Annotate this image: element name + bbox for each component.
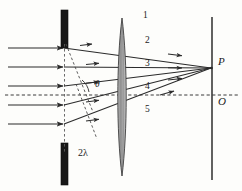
diffracted-ray-4 [64,68,211,105]
point-label-P: P [218,56,225,67]
diffraction-angle-label-theta: θ [95,80,100,90]
incoming-rays [8,48,63,124]
barrier-top-block [61,10,68,48]
wavefront-line-2 [76,84,97,139]
converging-lens [118,18,126,176]
path-difference-label-2lambda: 2λ [78,148,88,158]
ray-label-1: 1 [143,11,148,21]
diffracted-ray-5 [64,68,211,124]
ray-label-5: 5 [145,105,150,115]
diffracted-ray-2 [64,67,211,68]
diffracted-rays [64,48,211,124]
ray-label-3: 3 [145,59,150,69]
point-label-O: O [218,96,226,107]
physics-diagram-diffraction-grating: 1 2 3 4 5 P O 2λ θ [0,0,242,191]
ray-label-2: 2 [145,36,150,46]
ray-label-4: 4 [145,82,150,92]
path-difference-construction-lines [66,44,97,139]
grating-barrier [61,10,68,185]
focal-point-P-marker [210,67,213,70]
diagram-canvas [0,0,242,191]
